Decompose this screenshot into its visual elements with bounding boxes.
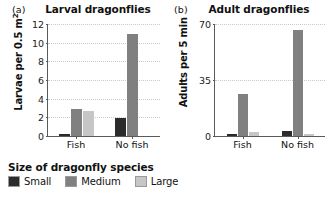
y-axis-tick-label: 70 xyxy=(199,19,211,30)
legend-item-medium: Medium xyxy=(65,176,120,187)
bar-small-fish xyxy=(227,134,237,136)
y-axis-tick-label: 12 xyxy=(32,19,44,30)
bar-medium-fish xyxy=(238,94,248,136)
x-axis-tick-label: Fish xyxy=(67,139,85,150)
y-axis-tick-label: 10 xyxy=(32,37,44,48)
panel-b-header: (b) Adult dragonflies xyxy=(166,3,331,19)
panel-b-plot-area: 03570FishNo fish xyxy=(214,24,325,137)
y-axis-tick-label: 6 xyxy=(38,75,44,86)
bar-small-fish xyxy=(59,134,70,136)
legend: Size of dragonfly species SmallMediumLar… xyxy=(8,161,248,187)
legend-swatch-medium xyxy=(65,176,77,187)
bar-group-fish: Fish xyxy=(48,24,104,136)
x-axis-tick-label: No fish xyxy=(281,139,314,150)
panel-a-title: Larval dragonflies xyxy=(34,3,162,15)
panel-b-y-axis-label-text: Adults per 5 min xyxy=(178,17,189,107)
y-axis-tick-label: 4 xyxy=(38,93,44,104)
legend-item-large: Large xyxy=(135,176,179,187)
chart-panel-larval: (a) Larval dragonflies Larvae per 0.5 m2… xyxy=(0,0,166,160)
legend-swatch-small xyxy=(8,176,20,187)
bar-group-no-fish: No fish xyxy=(270,24,325,136)
legend-swatch-large xyxy=(135,176,147,187)
panel-a-plot-area: 024681012FishNo fish xyxy=(47,24,160,137)
legend-label-medium: Medium xyxy=(81,176,120,187)
panel-a-y-axis-label-text: Larvae per 0.5 m xyxy=(13,18,24,110)
bar-large-no-fish xyxy=(304,134,314,136)
bar-group-no-fish: No fish xyxy=(104,24,160,136)
legend-label-small: Small xyxy=(24,176,51,187)
bar-medium-no-fish xyxy=(293,30,303,136)
bar-medium-fish xyxy=(71,109,82,136)
y-axis-tick-mark xyxy=(46,136,49,137)
y-axis-tick-label: 0 xyxy=(205,131,211,142)
legend-item-small: Small xyxy=(8,176,51,187)
legend-items: SmallMediumLarge xyxy=(8,176,248,187)
y-axis-tick-label: 0 xyxy=(38,131,44,142)
bar-large-fish xyxy=(83,111,94,136)
legend-title: Size of dragonfly species xyxy=(8,161,248,173)
y-axis-tick-label: 8 xyxy=(38,56,44,67)
bar-small-no-fish xyxy=(115,118,126,136)
chart-panel-adult: (b) Adult dragonflies Adults per 5 min 0… xyxy=(166,0,331,160)
x-axis-tick-label: No fish xyxy=(116,139,149,150)
bar-group-fish: Fish xyxy=(215,24,270,136)
panel-a-y-axis-label: Larvae per 0.5 m2 xyxy=(12,9,24,115)
legend-label-large: Large xyxy=(151,176,179,187)
x-axis-tick-label: Fish xyxy=(233,139,251,150)
panel-a-y-axis-label-exponent: 2 xyxy=(12,14,20,19)
y-axis-tick-mark xyxy=(213,136,216,137)
bar-medium-no-fish xyxy=(127,34,138,136)
panel-a-header: (a) Larval dragonflies xyxy=(0,3,166,19)
panel-b-title: Adult dragonflies xyxy=(194,3,324,15)
y-axis-tick-label: 35 xyxy=(199,75,211,86)
bar-small-no-fish xyxy=(282,131,292,136)
bar-large-fish xyxy=(249,132,259,136)
panel-b-y-axis-label: Adults per 5 min xyxy=(177,9,189,115)
y-axis-tick-label: 2 xyxy=(38,112,44,123)
figure: (a) Larval dragonflies Larvae per 0.5 m2… xyxy=(0,0,331,202)
